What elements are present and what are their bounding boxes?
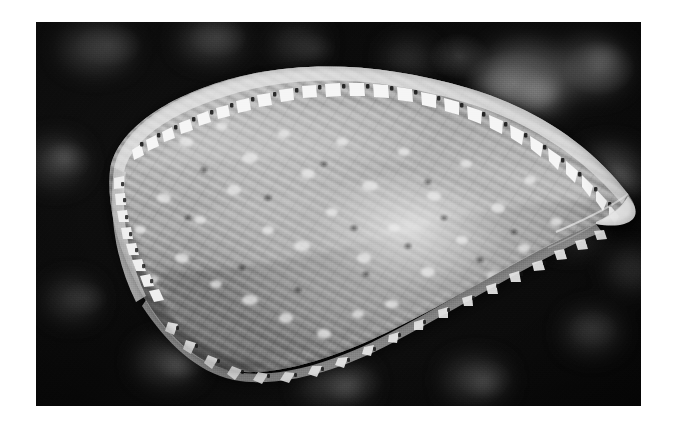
page-root [0, 0, 678, 428]
photograph-frame [36, 22, 641, 406]
shell-drawing [36, 22, 641, 406]
photograph-canvas [36, 22, 641, 406]
shell-specimen [36, 22, 641, 406]
